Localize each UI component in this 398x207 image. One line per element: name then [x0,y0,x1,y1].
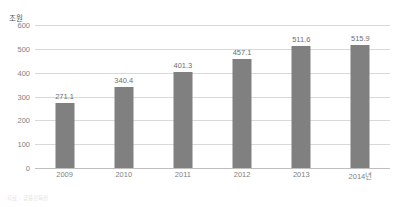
x-axis-tick-label: 2014년 [331,170,390,181]
y-axis-tick-label: 200 [17,116,30,125]
bar[interactable] [173,72,192,168]
y-axis-tick-label: 0 [26,164,30,173]
bar[interactable] [114,87,133,168]
x-axis-tick-label: 2012 [213,170,272,179]
bar-value-label: 515.9 [351,34,370,43]
bar-value-label: 511.6 [292,35,310,44]
bar[interactable] [292,46,311,168]
bar[interactable] [233,59,252,168]
bar-slot: 271.1 [35,25,94,168]
bar[interactable] [351,45,370,168]
bar-value-label: 271.1 [55,92,74,101]
source-caption: 자료 : 금융감독원 [7,194,49,202]
bar-value-label: 340.4 [114,76,133,85]
bar-slot: 511.6 [272,25,331,168]
y-axis-tick-label: 600 [17,21,30,30]
bar-slot: 457.1 [213,25,272,168]
bar-slot: 401.3 [153,25,212,168]
bar-value-label: 457.1 [233,48,252,57]
bars-layer: 271.1340.4401.3457.1511.6515.9 [35,25,390,168]
bar-slot: 515.9 [331,25,390,168]
x-axis-tick-label: 2009 [35,170,94,179]
plot-area: 6005004003002001000 271.1340.4401.3457.1… [35,25,390,168]
x-axis-tick-label: 2010 [94,170,153,179]
x-axis-tick-labels: 200920102011201220132014년 [35,170,390,184]
bar-chart: 조원 6005004003002001000 271.1340.4401.345… [0,0,398,207]
x-axis-tick-label: 2011 [153,170,212,179]
bar-slot: 340.4 [94,25,153,168]
y-axis-tick-label: 400 [17,68,30,77]
bar[interactable] [55,103,74,168]
y-axis-tick-label: 300 [17,92,30,101]
y-axis-tick-label: 500 [17,44,30,53]
gridline: 0 [35,168,390,169]
y-axis-tick-label: 100 [17,140,30,149]
bar-value-label: 401.3 [174,61,193,70]
x-axis-tick-label: 2013 [272,170,331,179]
